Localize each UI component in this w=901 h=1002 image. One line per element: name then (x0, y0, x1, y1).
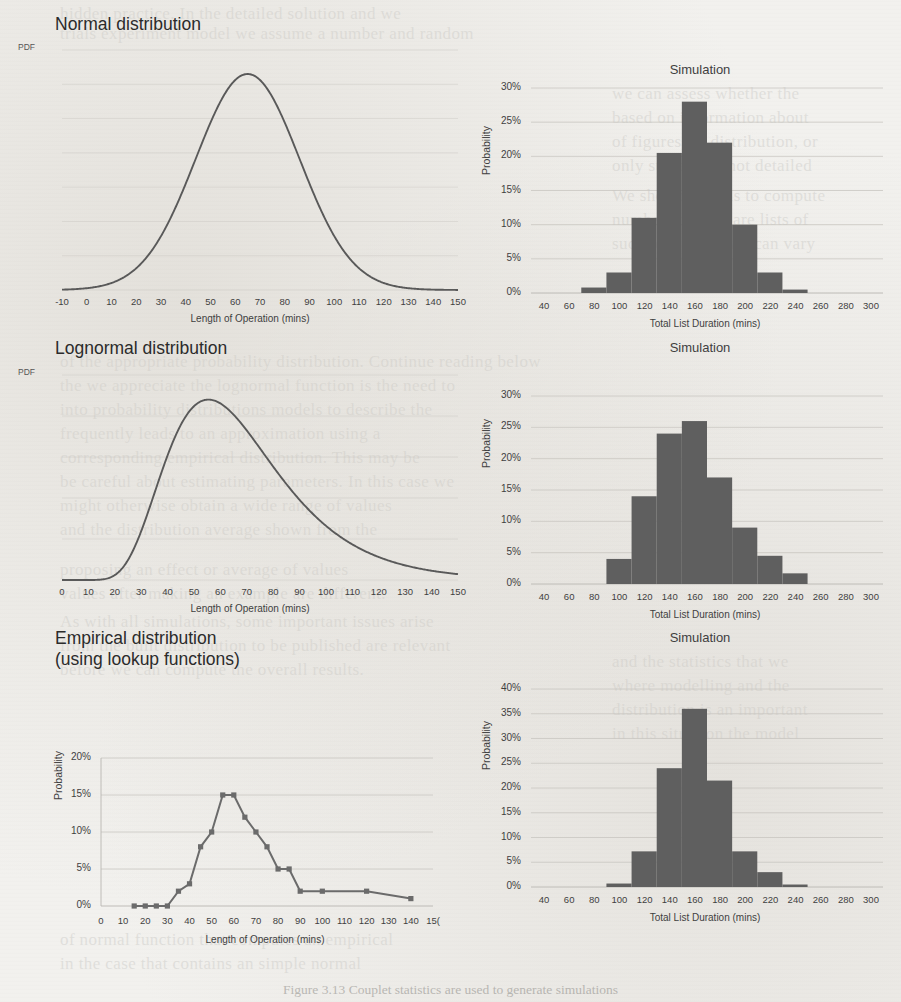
x-tick-label: 280 (838, 894, 854, 905)
x-tick-label: 110 (345, 586, 360, 597)
x-tick-label: 60 (564, 591, 575, 602)
x-tick-label: 100 (314, 915, 330, 926)
y-tick-label: 40% (501, 682, 521, 693)
y-tick-label: 10% (501, 218, 521, 229)
x-tick-label: 150 (450, 296, 466, 307)
x-tick-label: 160 (687, 591, 703, 602)
x-tick-label: 140 (662, 591, 678, 602)
x-tick-label: 120 (637, 300, 653, 311)
x-tick-label: 20 (140, 915, 151, 926)
y-tick-label: 25% (501, 420, 521, 431)
x-tick-label: 130 (381, 915, 397, 926)
x-tick-label: 140 (662, 894, 678, 905)
y-tick-label: 5% (77, 862, 91, 873)
lognormal-sim-title: Simulation (500, 340, 900, 355)
normal-sim-xtitle: Total List Duration (mins) (525, 318, 885, 329)
x-tick-label: 120 (376, 296, 392, 307)
y-tick-label: 15% (501, 806, 521, 817)
empirical-pdf-xticks: 010203040506070809010011012013014015( (95, 915, 435, 929)
normal-pdf-xticks: -100102030405060708090100110120130140150 (40, 296, 460, 310)
figure-page: Normal distribution PDF -100102030405060… (0, 0, 901, 1002)
normal-pdf-ylabel: PDF (18, 42, 35, 52)
normal-pdf-svg (40, 46, 460, 296)
y-tick-label: 10% (501, 831, 521, 842)
x-tick-label: 110 (337, 915, 352, 926)
x-tick-label: 130 (401, 296, 417, 307)
x-tick-label: 200 (737, 894, 753, 905)
normal-sim-svg (525, 82, 885, 297)
x-tick-label: 30 (156, 296, 167, 307)
x-tick-label: 280 (838, 300, 854, 311)
y-tick-label: 20% (501, 781, 521, 792)
x-tick-label: 50 (206, 915, 217, 926)
x-tick-label: 120 (371, 586, 387, 597)
x-tick-label: 70 (251, 915, 262, 926)
x-tick-label: 20 (131, 296, 142, 307)
x-tick-label: 60 (215, 586, 226, 597)
chart-lognormal-simulation: 0%5%10%15%20%25%30% (525, 390, 885, 588)
x-tick-label: 160 (687, 300, 703, 311)
x-tick-label: 260 (813, 894, 829, 905)
y-tick-label: 30% (501, 389, 521, 400)
x-tick-label: 30 (136, 586, 147, 597)
x-tick-label: 40 (539, 300, 550, 311)
figure-caption: Figure 3.13 Couplet statistics are used … (0, 982, 901, 998)
y-tick-label: 30% (501, 732, 521, 743)
x-tick-label: -10 (55, 296, 69, 307)
x-tick-label: 100 (612, 300, 628, 311)
x-tick-label: 80 (589, 894, 600, 905)
y-tick-label: 20% (71, 751, 91, 762)
chart-empirical-simulation: 0%5%10%15%20%25%30%35%40% (525, 683, 885, 891)
x-tick-label: 120 (359, 915, 375, 926)
empirical-sim-xtitle: Total List Duration (mins) (525, 912, 885, 923)
x-tick-label: 15( (426, 915, 440, 926)
empirical-pdf-svg (95, 752, 435, 912)
x-tick-label: 260 (813, 300, 829, 311)
x-tick-label: 80 (268, 586, 279, 597)
y-tick-label: 10% (501, 514, 521, 525)
x-tick-label: 40 (180, 296, 191, 307)
x-tick-label: 50 (189, 586, 200, 597)
chart-normal-pdf (40, 46, 460, 296)
x-tick-label: 10 (83, 586, 94, 597)
x-tick-label: 60 (229, 915, 240, 926)
chart-normal-simulation: 0%5%10%15%20%25%30% (525, 82, 885, 297)
x-tick-label: 0 (59, 586, 64, 597)
x-tick-label: 0 (98, 915, 103, 926)
x-tick-label: 220 (762, 894, 778, 905)
x-tick-label: 220 (762, 591, 778, 602)
y-tick-label: 5% (507, 855, 521, 866)
x-tick-label: 280 (838, 591, 854, 602)
lognormal-pdf-xtitle: Length of Operation (mins) (40, 603, 460, 614)
lognormal-pdf-svg (40, 371, 460, 586)
x-tick-label: 80 (589, 300, 600, 311)
x-tick-label: 70 (242, 586, 253, 597)
x-tick-label: 40 (539, 894, 550, 905)
y-tick-label: 25% (501, 756, 521, 767)
x-tick-label: 100 (612, 591, 628, 602)
empirical-sim-svg (525, 683, 885, 891)
x-tick-label: 110 (351, 296, 366, 307)
x-tick-label: 160 (687, 894, 703, 905)
x-tick-label: 10 (106, 296, 117, 307)
heading-text: Normal distribution (55, 14, 201, 35)
x-tick-label: 80 (273, 915, 284, 926)
chart-lognormal-pdf (40, 371, 460, 586)
x-tick-label: 300 (863, 591, 879, 602)
x-tick-label: 0 (84, 296, 89, 307)
x-tick-label: 200 (737, 300, 753, 311)
y-tick-label: 0% (77, 899, 91, 910)
x-tick-label: 180 (712, 591, 728, 602)
x-tick-label: 240 (788, 591, 804, 602)
x-tick-label: 300 (863, 894, 879, 905)
x-tick-label: 100 (326, 296, 342, 307)
x-tick-label: 140 (424, 586, 440, 597)
lognormal-pdf-ylabel: PDF (18, 367, 35, 377)
heading-text: Lognormal distribution (55, 338, 227, 359)
x-tick-label: 150 (450, 586, 466, 597)
empirical-pdf-xtitle: Length of Operation (mins) (60, 934, 470, 945)
normal-pdf-xtitle: Length of Operation (mins) (40, 313, 460, 324)
section-empirical-heading: Empirical distribution (using lookup fun… (55, 628, 240, 669)
x-tick-label: 80 (589, 591, 600, 602)
x-tick-label: 40 (162, 586, 173, 597)
